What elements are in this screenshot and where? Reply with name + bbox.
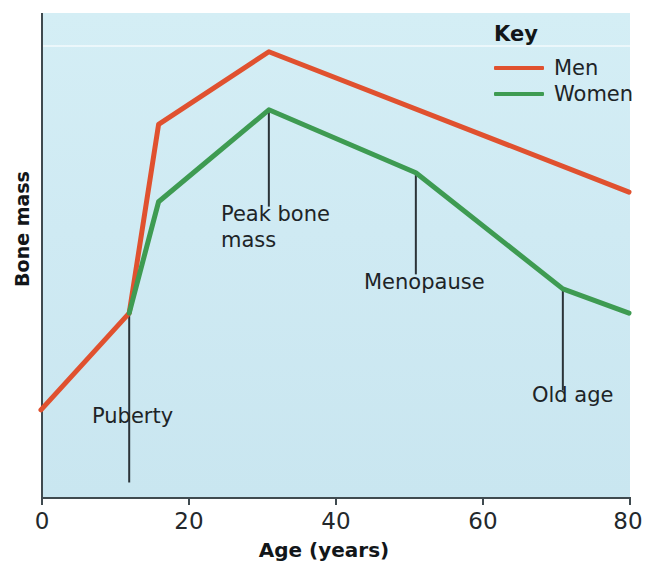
legend-item-men[interactable]: Men: [494, 55, 634, 81]
legend-label-women: Women: [554, 82, 633, 106]
bone-mass-age-chart: 0 20 40 60 80 Age (years) Bone mass Pube…: [0, 0, 648, 580]
y-axis-line: [41, 13, 43, 499]
legend-label-men: Men: [554, 56, 598, 80]
x-tick-60: [482, 497, 484, 505]
annotation-puberty: Puberty: [92, 404, 173, 430]
legend-swatch-women-icon: [494, 92, 544, 96]
legend-title: Key: [494, 22, 634, 46]
x-tick-40: [335, 497, 337, 505]
x-tick-label-60: 60: [468, 508, 497, 534]
x-tick-label-20: 20: [174, 508, 203, 534]
x-tick-label-0: 0: [35, 508, 50, 534]
x-tick-20: [188, 497, 190, 505]
annotation-peak-bone-mass: Peak bone mass: [221, 202, 330, 253]
x-tick-label-80: 80: [613, 508, 642, 534]
x-tick-label-40: 40: [321, 508, 350, 534]
x-tick-0: [41, 497, 43, 505]
annotation-menopause: Menopause: [364, 270, 485, 296]
annotation-old-age: Old age: [532, 383, 614, 409]
legend-item-women[interactable]: Women: [494, 81, 634, 107]
legend-swatch-men-icon: [494, 66, 544, 70]
x-axis-title: Age (years): [0, 538, 648, 562]
legend: Key Men Women: [494, 22, 634, 107]
y-axis-title: Bone mass: [11, 169, 33, 289]
x-tick-80: [629, 497, 631, 505]
